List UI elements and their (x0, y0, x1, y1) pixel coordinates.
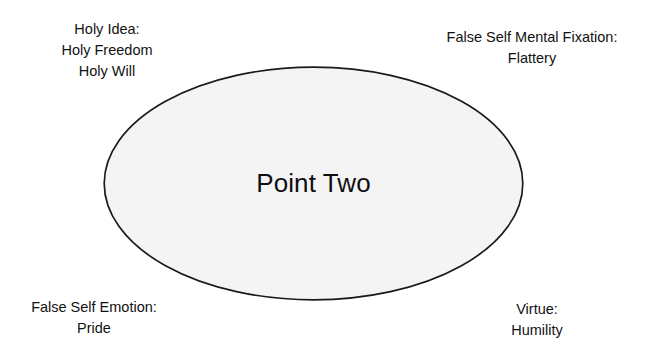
annotation-false-self-emotion: False Self Emotion: Pride (21, 297, 167, 339)
annotation-holy-idea: Holy Idea: Holy Freedom Holy Will (34, 19, 180, 82)
annotation-line: Holy Freedom (34, 40, 180, 61)
point-two-ellipse[interactable]: Point Two (103, 66, 524, 301)
annotation-false-self-mental-fixation: False Self Mental Fixation: Flattery (432, 27, 632, 69)
ellipse-shape (103, 66, 524, 301)
annotation-line: False Self Mental Fixation: (432, 27, 632, 48)
annotation-line: Pride (21, 318, 167, 339)
annotation-line: Humility (478, 320, 596, 341)
annotation-line: Flattery (432, 48, 632, 69)
annotation-line: Holy Idea: (34, 19, 180, 40)
annotation-line: Virtue: (478, 299, 596, 320)
annotation-line: Holy Will (34, 61, 180, 82)
diagram-canvas: Point Two Holy Idea: Holy Freedom Holy W… (0, 0, 656, 364)
annotation-line: False Self Emotion: (21, 297, 167, 318)
annotation-virtue: Virtue: Humility (478, 299, 596, 341)
